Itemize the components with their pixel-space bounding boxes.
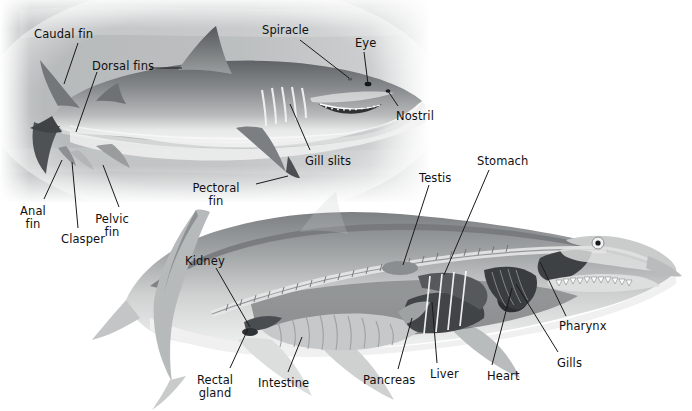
label-intestine: Intestine — [258, 377, 309, 390]
label-eye: Eye — [355, 37, 376, 50]
label-gill-slits: Gill slits — [305, 155, 351, 168]
label-pelvic-fin: Pelvic fin — [95, 213, 129, 238]
label-spiracle: Spiracle — [262, 24, 309, 37]
label-rectal-gland: Rectal gland — [197, 374, 233, 399]
label-heart: Heart — [487, 370, 520, 383]
label-dorsal-fins: Dorsal fins — [92, 60, 154, 73]
label-kidney: Kidney — [185, 255, 225, 268]
rectal-gland-organ — [242, 328, 258, 336]
label-gills: Gills — [557, 357, 582, 370]
figure-canvas: Caudal finDorsal finsSpiracleEyeNostrilG… — [0, 0, 692, 411]
label-pancreas: Pancreas — [363, 374, 415, 387]
label-pharynx: Pharynx — [559, 320, 607, 333]
label-liver: Liver — [430, 368, 459, 381]
label-nostril: Nostril — [396, 110, 434, 123]
label-pectoral-fin: Pectoral fin — [192, 182, 239, 207]
label-caudal-fin: Caudal fin — [34, 28, 93, 41]
label-anal-fin: Anal fin — [20, 205, 46, 230]
label-stomach: Stomach — [477, 155, 528, 168]
testis-organ — [382, 261, 418, 275]
label-testis: Testis — [419, 172, 451, 185]
